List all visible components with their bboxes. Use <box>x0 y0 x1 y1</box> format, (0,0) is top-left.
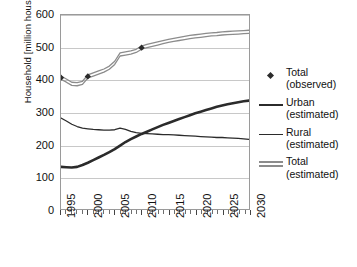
x-axis-tick <box>223 210 224 215</box>
legend-label: Rural(estimated) <box>286 126 354 151</box>
x-axis-tick <box>114 210 115 215</box>
line-icon <box>259 134 283 136</box>
legend-symbol-thick-line <box>258 101 284 109</box>
legend-label: Total(observed) <box>286 66 354 91</box>
chart-legend: Total(observed)Urban(estimated)Rural(est… <box>258 66 354 185</box>
x-axis-tick-label: 2030 <box>255 194 267 218</box>
x-axis-tick <box>169 210 170 215</box>
x-axis-tick <box>190 210 191 214</box>
x-axis-tick <box>87 210 88 215</box>
data-series-layer <box>61 15 249 209</box>
y-axis-tick-labels: 0100200300400500600 <box>0 0 60 225</box>
legend-label-line1: Rural <box>286 126 311 138</box>
double-line-icon-top <box>259 161 283 163</box>
x-axis-tick-label: 2015 <box>174 194 186 218</box>
x-axis-tick <box>109 210 110 214</box>
legend-symbol-diamond-marker <box>258 71 284 79</box>
y-axis-tick-label: 300 <box>36 106 54 118</box>
legend-item: Total(estimated) <box>258 155 354 180</box>
legend-label: Total(estimated) <box>286 155 354 180</box>
legend-item: Rural(estimated) <box>258 126 354 151</box>
x-axis-tick-label: 2025 <box>228 194 240 218</box>
x-axis-tick <box>250 210 251 215</box>
x-axis-tick <box>196 210 197 215</box>
legend-label-line1: Total <box>286 155 308 167</box>
x-axis-tick <box>141 210 142 215</box>
x-axis-tick <box>60 210 61 215</box>
x-axis-tick <box>136 210 137 214</box>
x-axis-tick <box>245 210 246 214</box>
x-axis-tick-label: 2010 <box>146 194 158 218</box>
x-axis-tick-label: 2005 <box>119 194 131 218</box>
legend-label-line2: (estimated) <box>286 108 354 120</box>
y-axis-tick-label: 500 <box>36 41 54 53</box>
legend-label-line1: Urban <box>286 96 315 108</box>
y-axis-tick-label: 600 <box>36 8 54 20</box>
legend-label-line2: (estimated) <box>286 168 354 180</box>
legend-label: Urban(estimated) <box>286 96 354 121</box>
y-axis-tick-label: 200 <box>36 139 54 151</box>
y-axis-tick-label: 0 <box>48 204 54 216</box>
x-axis-tick <box>82 210 83 214</box>
legend-item: Total(observed) <box>258 66 354 91</box>
plot-area <box>60 14 250 210</box>
x-axis-tick-label: 2020 <box>201 194 213 218</box>
legend-item: Urban(estimated) <box>258 96 354 121</box>
line-icon <box>259 104 283 106</box>
diamond-icon <box>267 72 274 79</box>
legend-label-line1: Total <box>286 66 308 78</box>
chart-figure: Household [million household] 0100200300… <box>0 0 357 267</box>
x-axis-tick <box>163 210 164 214</box>
legend-label-line2: (observed) <box>286 78 354 90</box>
double-line-icon-bottom <box>259 165 283 167</box>
y-axis-tick-label: 100 <box>36 171 54 183</box>
y-axis-tick-label: 400 <box>36 73 54 85</box>
x-axis-tick-label: 2000 <box>92 194 104 218</box>
x-axis-tick <box>217 210 218 214</box>
legend-symbol-thin-line <box>258 131 284 139</box>
legend-symbol-double-line <box>258 160 284 168</box>
x-axis-tick-label: 1995 <box>65 194 77 218</box>
legend-label-line2: (estimated) <box>286 138 354 150</box>
